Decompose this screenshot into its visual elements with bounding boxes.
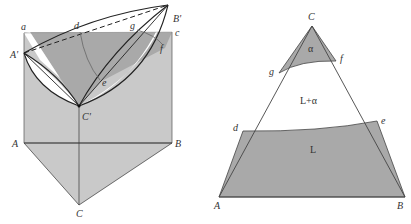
label-L: L [310,144,316,155]
ternary-prism: a d g B' c A' f e C' A B C [9,5,182,219]
label-e-right: e [381,115,386,126]
label-C-right: C [308,11,315,22]
label-d: d [74,20,80,31]
label-c: c [175,27,180,38]
label-C: C [76,208,83,219]
label-e: e [102,77,107,88]
label-B: B [175,138,181,149]
label-g-right: g [269,66,274,77]
label-Aprime: A' [9,49,19,60]
label-Bprime: B' [173,13,182,24]
isothermal-section: C α f g L+α d e L A B [213,11,405,211]
label-Cprime: C' [82,111,92,122]
label-alpha: α [308,43,314,54]
label-B-right: B [397,200,403,211]
point-Cprime [78,105,81,108]
label-d-right: d [233,122,239,133]
label-f-right: f [340,53,344,64]
label-A: A [11,138,19,149]
label-g: g [130,20,135,31]
label-L-alpha: L+α [300,95,318,106]
diagram-canvas: a d g B' c A' f e C' A B C C α f g L+α d… [0,0,411,224]
prism-base [24,143,172,205]
liquid-region [219,121,405,197]
label-A-right: A [213,200,221,211]
label-a: a [21,21,26,32]
